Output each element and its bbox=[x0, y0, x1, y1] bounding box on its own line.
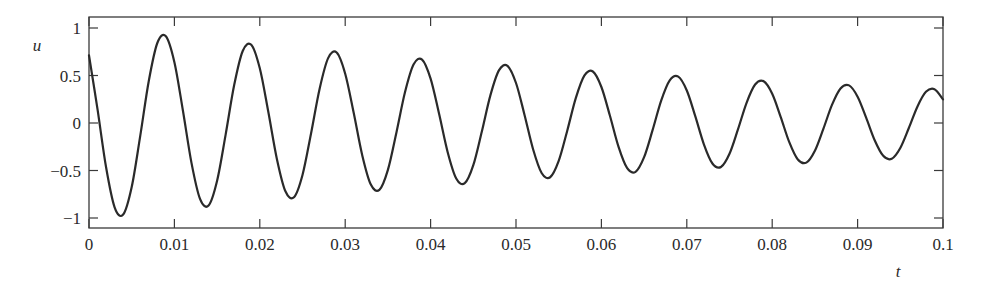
x-tick-label: 0.04 bbox=[416, 235, 446, 254]
y-tick-label: 0 bbox=[73, 114, 82, 133]
x-axis-label: t bbox=[896, 262, 902, 281]
x-tick-label: 0.01 bbox=[160, 235, 190, 254]
x-tick-label: 0 bbox=[85, 235, 94, 254]
y-tick-label: −0.5 bbox=[50, 162, 81, 181]
x-tick-label: 0.08 bbox=[757, 235, 787, 254]
y-axis-label: u bbox=[33, 36, 42, 55]
y-tick-label: 1 bbox=[73, 19, 82, 38]
data-series-u bbox=[89, 35, 943, 216]
plot-frame bbox=[89, 17, 943, 228]
x-tick-label: 0.05 bbox=[501, 235, 531, 254]
x-tick-label: 0.02 bbox=[245, 235, 275, 254]
x-tick-label: 0.03 bbox=[330, 235, 360, 254]
y-tick-label: 0.5 bbox=[60, 67, 81, 86]
line-chart: 10.50−0.5−1 00.010.020.030.040.050.060.0… bbox=[0, 0, 988, 285]
x-tick-label: 0.1 bbox=[932, 235, 953, 254]
y-tick-label: −1 bbox=[63, 209, 81, 228]
x-tick-label: 0.09 bbox=[843, 235, 873, 254]
x-tick-label: 0.07 bbox=[672, 235, 702, 254]
x-axis: 00.010.020.030.040.050.060.070.080.090.1 bbox=[85, 17, 954, 254]
x-tick-label: 0.06 bbox=[587, 235, 617, 254]
